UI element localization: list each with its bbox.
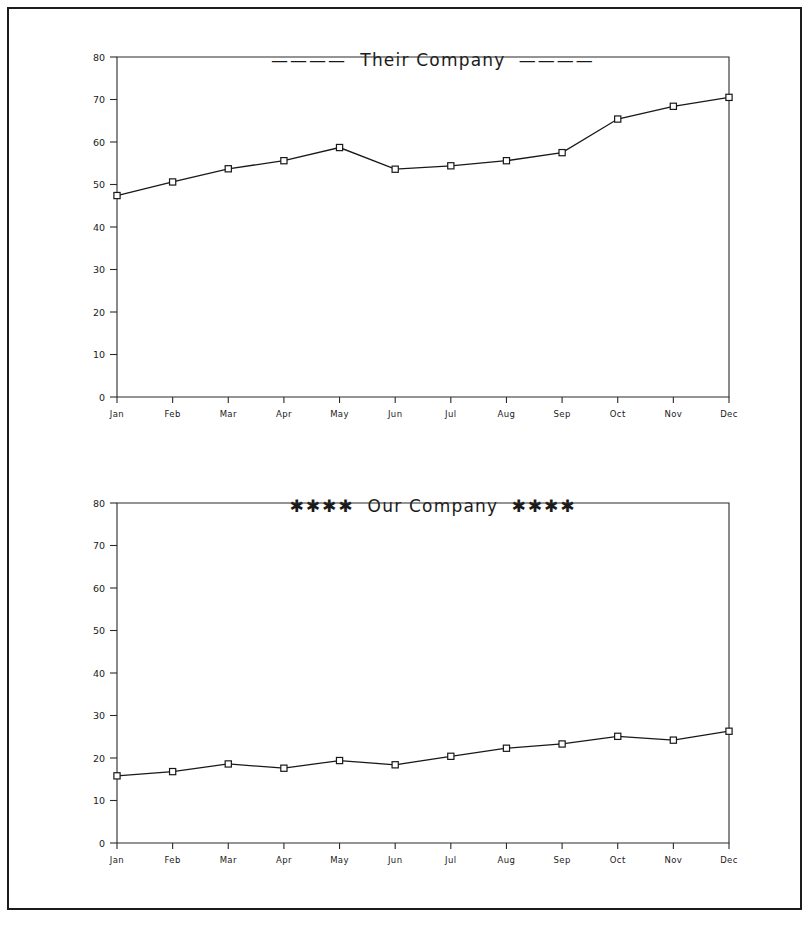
title-text-their-company: Their Company	[360, 50, 505, 70]
data-point-marker	[113, 773, 119, 779]
page-root: ———— Their Company ———— 0102030405060708…	[0, 0, 809, 925]
x-axis-tick-label: Aug	[497, 855, 515, 865]
x-axis-tick-label: Jun	[386, 855, 401, 865]
plot-frame	[117, 57, 729, 397]
y-axis-tick-label: 0	[98, 392, 104, 403]
y-axis-tick-label: 50	[92, 179, 104, 190]
x-axis-tick-label: Sep	[553, 409, 570, 419]
title-spacer-right-2	[498, 496, 511, 516]
data-point-marker	[614, 733, 620, 739]
x-axis-tick-label: May	[330, 409, 349, 419]
title-decoration-right-dashes: ————	[519, 50, 595, 70]
x-axis-tick-label: Apr	[275, 409, 291, 419]
x-axis-tick-label: Oct	[609, 855, 625, 865]
data-point-marker	[225, 761, 231, 767]
data-point-marker	[725, 94, 731, 100]
y-axis-tick-label: 70	[92, 94, 104, 105]
y-axis-tick-label: 60	[92, 137, 104, 148]
data-point-marker	[447, 163, 453, 169]
y-axis-tick-label: 40	[92, 668, 104, 679]
data-point-marker	[447, 753, 453, 759]
x-axis-tick-label: Nov	[664, 855, 682, 865]
x-axis-tick-label: Jul	[444, 855, 456, 865]
chart-panel-their-company: ———— Their Company ———— 0102030405060708…	[9, 15, 804, 455]
title-decoration-left-dashes: ————	[271, 50, 347, 70]
data-point-marker	[225, 166, 231, 172]
x-axis-tick-label: Sep	[553, 855, 570, 865]
data-point-marker	[392, 166, 398, 172]
chart-panel-our-company: ✱✱✱✱ Our Company ✱✱✱✱ 01020304050607080J…	[9, 461, 804, 901]
data-point-marker	[392, 762, 398, 768]
x-axis-tick-label: Nov	[664, 409, 682, 419]
data-point-marker	[725, 728, 731, 734]
chart-title-their-company: ———— Their Company ————	[9, 15, 804, 45]
y-axis-tick-label: 10	[92, 795, 104, 806]
chart-title-our-company: ✱✱✱✱ Our Company ✱✱✱✱	[9, 461, 804, 491]
x-axis-tick-label: Dec	[720, 855, 738, 865]
page-border-frame: ———— Their Company ———— 0102030405060708…	[7, 7, 802, 910]
title-spacer-left-2	[354, 496, 367, 516]
x-axis-tick-label: Dec	[720, 409, 738, 419]
data-point-marker	[670, 103, 676, 109]
data-point-marker	[558, 741, 564, 747]
x-axis-tick-label: Mar	[219, 855, 236, 865]
x-axis-tick-label: Feb	[164, 409, 180, 419]
data-point-marker	[558, 150, 564, 156]
data-point-marker	[113, 192, 119, 198]
title-spacer-left	[347, 50, 360, 70]
y-axis-tick-label: 0	[98, 838, 104, 849]
data-series-line	[117, 97, 729, 195]
x-axis-tick-label: May	[330, 855, 349, 865]
x-axis-tick-label: Jan	[108, 409, 123, 419]
title-decoration-left-asterisks: ✱✱✱✱	[289, 496, 354, 516]
plot-frame	[117, 503, 729, 843]
x-axis-tick-label: Oct	[609, 409, 625, 419]
y-axis-tick-label: 20	[92, 753, 104, 764]
data-point-marker	[503, 158, 509, 164]
data-point-marker	[336, 757, 342, 763]
title-decoration-right-asterisks: ✱✱✱✱	[511, 496, 576, 516]
x-axis-tick-label: Jan	[108, 855, 123, 865]
y-axis-tick-label: 20	[92, 307, 104, 318]
y-axis-tick-label: 80	[92, 498, 104, 509]
x-axis-tick-label: Mar	[219, 409, 236, 419]
data-point-marker	[670, 737, 676, 743]
y-axis-tick-label: 70	[92, 540, 104, 551]
x-axis-tick-label: Apr	[275, 855, 291, 865]
y-axis-tick-label: 50	[92, 625, 104, 636]
data-point-marker	[336, 144, 342, 150]
data-point-marker	[280, 158, 286, 164]
chart-plot-their-company: 01020304050607080JanFebMarAprMayJunJulAu…	[57, 45, 757, 445]
y-axis-tick-label: 40	[92, 222, 104, 233]
data-point-marker	[503, 745, 509, 751]
x-axis-tick-label: Feb	[164, 855, 180, 865]
data-point-marker	[614, 116, 620, 122]
y-axis-tick-label: 60	[92, 583, 104, 594]
data-point-marker	[169, 769, 175, 775]
title-spacer-right	[506, 50, 519, 70]
y-axis-tick-label: 10	[92, 349, 104, 360]
y-axis-tick-label: 80	[92, 52, 104, 63]
data-point-marker	[280, 765, 286, 771]
chart-plot-our-company: 01020304050607080JanFebMarAprMayJunJulAu…	[57, 491, 757, 891]
x-axis-tick-label: Aug	[497, 409, 515, 419]
y-axis-tick-label: 30	[92, 710, 104, 721]
y-axis-tick-label: 30	[92, 264, 104, 275]
data-point-marker	[169, 179, 175, 185]
title-text-our-company: Our Company	[368, 496, 499, 516]
x-axis-tick-label: Jun	[386, 409, 401, 419]
x-axis-tick-label: Jul	[444, 409, 456, 419]
data-series-line	[117, 731, 729, 776]
